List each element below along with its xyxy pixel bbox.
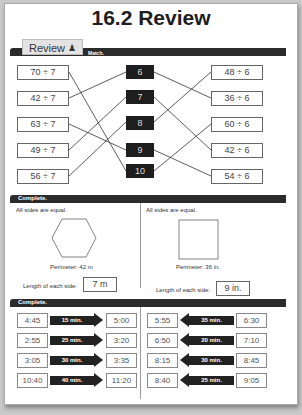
right-expression: 60 ÷ 6: [211, 117, 263, 132]
left-expression: 70 ÷ 7: [17, 65, 69, 80]
perimeter-instruction: Complete.: [18, 194, 47, 203]
left-expression: 42 ÷ 7: [17, 91, 69, 106]
end-time: 11:20: [106, 373, 137, 388]
hexagon-side-label: Length of each side:: [23, 283, 77, 289]
start-time: 6:50: [147, 333, 178, 348]
start-time: 3:05: [17, 353, 48, 368]
elapsed-time-divider: [140, 307, 141, 399]
square-side-answer: 9 in.: [216, 281, 250, 296]
elapsed-arrow-right: 15 min.: [50, 313, 104, 328]
right-expression: 36 ÷ 6: [211, 91, 263, 106]
start-time: 4:45: [17, 313, 48, 328]
elapsed-arrow-left: 35 min.: [180, 313, 234, 328]
elapsed-arrow-right: 40 min.: [50, 373, 104, 388]
square-perimeter: Perimeter: 36 in.: [176, 264, 220, 270]
elapsed-time-section-header: Complete.: [10, 299, 286, 307]
hexagon-side-answer: 7 m: [83, 277, 117, 292]
answer-box: 8: [126, 116, 154, 130]
hexagon-shape: [50, 218, 98, 258]
elapsed-arrow-right: 30 min.: [50, 353, 104, 368]
square-shape: [178, 219, 220, 261]
answer-box: 9: [126, 143, 154, 157]
elapsed-time-instruction: Complete.: [18, 298, 47, 307]
elapsed-arrow-left: 25 min.: [180, 373, 234, 388]
start-time: 10:40: [17, 373, 48, 388]
end-time: 7:10: [236, 333, 267, 348]
left-expression: 63 ÷ 7: [17, 117, 69, 132]
end-time: 9:05: [236, 373, 267, 388]
answer-box: 7: [126, 90, 154, 104]
end-time: 6:30: [236, 313, 267, 328]
left-expression: 56 ÷ 7: [17, 169, 69, 184]
right-expression: 54 ÷ 6: [211, 169, 263, 184]
end-time: 8:45: [236, 353, 267, 368]
start-time: 5:55: [147, 313, 178, 328]
end-time: 3:20: [106, 333, 137, 348]
right-expression: 48 ÷ 6: [211, 65, 263, 80]
end-time: 3:35: [106, 353, 137, 368]
start-time: 8:15: [147, 353, 178, 368]
right-expression: 42 ÷ 6: [211, 143, 263, 158]
elapsed-arrow-right: 25 min.: [50, 333, 104, 348]
start-time: 8:40: [147, 373, 178, 388]
hexagon-note: All sides are equal.: [16, 207, 67, 213]
perimeter-section-header: Complete.: [10, 195, 286, 203]
perimeter-divider: [140, 203, 141, 288]
elapsed-arrow-left: 20 min.: [180, 333, 234, 348]
start-time: 2:55: [17, 333, 48, 348]
square-side-label: Length of each side:: [156, 287, 210, 293]
elapsed-arrow-left: 30 min.: [180, 353, 234, 368]
answer-box: 6: [126, 65, 154, 79]
answer-box: 10: [126, 164, 154, 178]
end-time: 5:00: [106, 313, 137, 328]
hexagon-perimeter: Perimeter: 42 m: [50, 264, 93, 270]
square-note: All sides are equal.: [146, 207, 197, 213]
left-expression: 49 ÷ 7: [17, 143, 69, 158]
